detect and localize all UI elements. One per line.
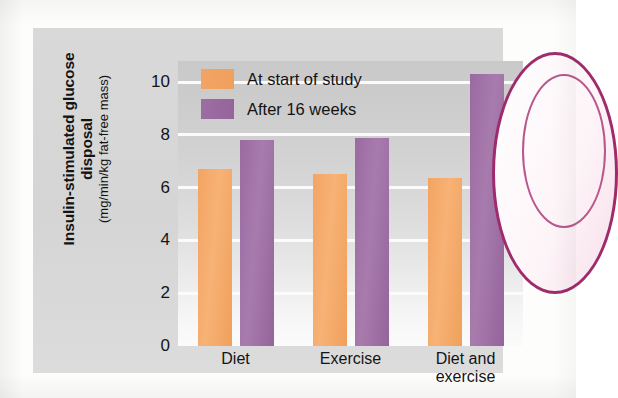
- legend-item-start: At start of study: [201, 64, 431, 94]
- x-axis-category-labels: DietExerciseDiet andexercise: [178, 350, 523, 398]
- bar-after-1: [240, 140, 274, 346]
- legend-label-start: At start of study: [247, 70, 362, 89]
- y-axis-tick-labels: 0246810: [130, 61, 170, 346]
- legend-swatch-start: [201, 69, 234, 89]
- y-axis-tick-label: 8: [136, 125, 170, 145]
- bar-start-2: [313, 174, 347, 346]
- bar-start-1: [198, 169, 232, 346]
- legend-swatch-after: [201, 99, 234, 119]
- legend-item-after: After 16 weeks: [201, 94, 431, 124]
- x-axis-category-label: Diet: [178, 350, 293, 368]
- x-axis-category-label-line: exercise: [408, 368, 523, 386]
- y-axis-tick-label: 0: [136, 336, 170, 356]
- x-axis-category-label: Diet andexercise: [408, 350, 523, 386]
- x-axis-category-label-line: Diet: [178, 350, 293, 368]
- y-axis-tick-label: 4: [136, 230, 170, 250]
- y-axis-title-units: (mg/min/kg fat-free mass): [96, 24, 112, 274]
- legend: At start of studyAfter 16 weeks: [201, 64, 431, 124]
- y-axis-tick-label: 10: [136, 72, 170, 92]
- bar-after-2: [355, 138, 389, 346]
- x-axis-category-label-line: Exercise: [293, 350, 408, 368]
- y-axis-title: Insulin-stimulated glucose disposal (mg/…: [60, 24, 112, 274]
- y-axis-tick-label: 6: [136, 178, 170, 198]
- legend-label-after: After 16 weeks: [247, 100, 356, 119]
- x-axis-category-label-line: Diet and: [408, 350, 523, 368]
- page-decoration-arc-inner: [522, 74, 606, 228]
- y-axis-title-main: Insulin-stimulated glucose disposal: [60, 24, 95, 274]
- x-axis-category-label: Exercise: [293, 350, 408, 368]
- y-axis-tick-label: 2: [136, 283, 170, 303]
- figure-panel: Insulin-stimulated glucose disposal (mg/…: [33, 28, 503, 373]
- bar-start-3: [428, 178, 462, 346]
